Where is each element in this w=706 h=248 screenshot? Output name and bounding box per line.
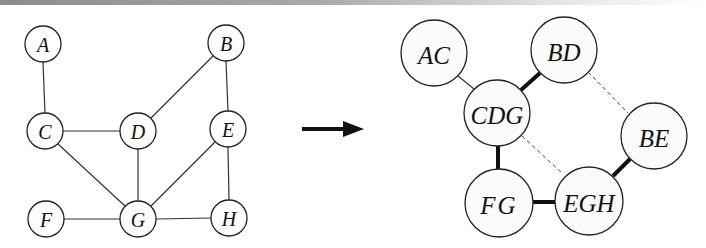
node-G: G <box>120 201 156 237</box>
edge-A-C <box>43 62 45 113</box>
node-FG: FG <box>465 169 533 237</box>
node-C: C <box>27 113 63 149</box>
edge-CDG-EGH <box>522 136 563 174</box>
edge-G-H <box>156 218 211 219</box>
edge-BD-CDG <box>521 73 540 90</box>
node-BD: BD <box>531 17 597 83</box>
node-CDG: CDG <box>464 80 530 146</box>
node-label: CDG <box>471 102 524 129</box>
node-label: BD <box>547 39 580 66</box>
node-label: FG <box>479 192 517 219</box>
graph-diagram: A B C D E F G H <box>0 0 706 248</box>
edge-BE-EGH <box>613 159 630 176</box>
edge-E-G <box>151 142 215 206</box>
edge-BD-BE <box>588 72 628 113</box>
node-label: H <box>221 208 238 230</box>
node-BE: BE <box>621 103 687 169</box>
node-EGH: EGH <box>555 167 623 235</box>
transform-arrow-icon <box>302 121 364 137</box>
node-label: G <box>131 209 146 231</box>
node-H: H <box>211 200 247 236</box>
edge-C-G <box>58 144 125 206</box>
node-label: B <box>220 33 232 55</box>
edge-AC-CDG <box>458 76 474 89</box>
edge-E-H <box>228 147 229 200</box>
node-B: B <box>208 25 244 61</box>
left-graph-nodes: A B C D E F G H <box>25 25 247 237</box>
edge-B-D <box>151 56 213 118</box>
node-label: C <box>38 121 52 143</box>
node-label: A <box>35 34 50 56</box>
node-label: EGH <box>562 190 616 217</box>
node-label: D <box>130 121 146 143</box>
node-E: E <box>210 111 246 147</box>
node-label: F <box>39 209 53 231</box>
node-F: F <box>28 201 64 237</box>
node-A: A <box>25 26 61 62</box>
node-label: BE <box>639 125 670 152</box>
edge-B-E <box>226 61 228 111</box>
node-label: AC <box>416 42 450 69</box>
node-D: D <box>120 113 156 149</box>
node-AC: AC <box>401 20 467 86</box>
node-label: E <box>221 119 234 141</box>
